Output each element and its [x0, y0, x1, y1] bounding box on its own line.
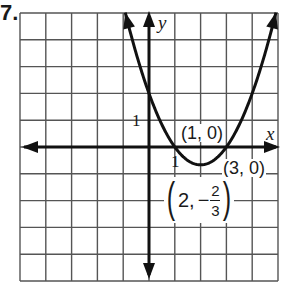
vertex-fraction: 2 3	[210, 183, 220, 218]
vertex-x: 2,	[178, 189, 195, 212]
vertex-fraction-denominator: 3	[211, 203, 219, 218]
fraction-bar	[210, 200, 220, 201]
y-axis-label: y	[158, 13, 166, 32]
vertex-fraction-numerator: 2	[211, 183, 219, 198]
x-intercept-label-1: (1, 0)	[180, 124, 224, 142]
vertex-sign: −	[198, 189, 210, 212]
vertex-paren-open: (	[167, 177, 175, 219]
x-axis-label: x	[266, 124, 274, 143]
vertex-label: ( 2, − 2 3 )	[164, 177, 234, 223]
x-tick-label: 1	[171, 153, 180, 170]
axes	[22, 11, 280, 279]
y-tick-label: 1	[132, 112, 141, 129]
vertex-paren-close: )	[223, 177, 231, 219]
coordinate-graph	[0, 0, 288, 284]
